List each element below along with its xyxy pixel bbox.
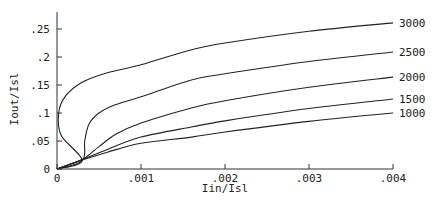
series-line-2500 [57, 52, 393, 169]
y-tick-label: .1 [37, 107, 50, 120]
series-line-2000 [57, 77, 393, 169]
series-label-2500: 2500 [399, 46, 426, 59]
series-line-1000 [57, 113, 393, 169]
series-label-3000: 3000 [399, 17, 426, 30]
series-label-2000: 2000 [399, 71, 426, 84]
y-tick-label: .25 [30, 23, 50, 36]
y-tick-label: .2 [37, 51, 50, 64]
x-tick-label: .001 [128, 172, 155, 185]
series-line-3000 [57, 23, 393, 169]
y-tick-label: .15 [30, 79, 50, 92]
x-tick-label: .003 [296, 172, 323, 185]
x-tick-label: .004 [380, 172, 407, 185]
plot-area: 30002500200015001000 [57, 17, 426, 169]
y-tick-label: 0 [43, 163, 50, 176]
series-label-1500: 1500 [399, 93, 426, 106]
x-tick-label: 0 [54, 172, 61, 185]
series-line-1500 [57, 99, 393, 169]
y-axis-label: Iout/Isl [8, 73, 21, 126]
y-tick-label: .05 [30, 135, 50, 148]
series-label-1000: 1000 [399, 107, 426, 120]
x-axis-label: Iin/Isl [202, 182, 248, 195]
chart: 30002500200015001000 0.001.002.003.0040.… [0, 0, 436, 200]
